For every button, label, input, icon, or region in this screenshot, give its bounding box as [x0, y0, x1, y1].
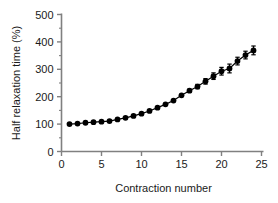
data-point-marker	[123, 115, 129, 121]
data-point-marker	[155, 105, 161, 111]
x-axis-title: Contraction number	[115, 182, 212, 194]
data-point-marker	[107, 118, 113, 124]
half-relaxation-time-scatter-chart: 01002003004005000510152025Contraction nu…	[0, 0, 278, 203]
data-point-marker	[195, 84, 201, 90]
y-axis-tick-label: 200	[35, 91, 53, 103]
y-axis-tick-label: 100	[35, 118, 53, 130]
data-point-marker	[91, 119, 97, 125]
y-axis-tick-label: 0	[47, 146, 53, 158]
x-axis-tick-label: 25	[255, 158, 267, 170]
data-point-marker	[171, 98, 177, 104]
data-point-marker	[83, 120, 89, 126]
x-axis-tick-label: 15	[175, 158, 187, 170]
data-point-marker	[211, 73, 217, 79]
y-axis-title: Half relaxation time (%)	[10, 26, 22, 140]
data-point-marker	[131, 113, 137, 119]
data-point-marker	[227, 66, 233, 72]
data-point-marker	[147, 108, 153, 114]
data-point-marker	[251, 47, 257, 53]
x-axis-tick-label: 20	[215, 158, 227, 170]
x-axis-tick-label: 10	[135, 158, 147, 170]
y-axis-tick-label: 500	[35, 9, 53, 21]
x-axis-tick-label: 0	[58, 158, 64, 170]
chart-figure: 01002003004005000510152025Contraction nu…	[0, 0, 278, 203]
data-point-marker	[99, 119, 105, 125]
data-point-marker	[67, 121, 73, 127]
data-point-marker	[115, 117, 121, 123]
data-point-marker	[179, 92, 185, 98]
data-point-marker	[163, 101, 169, 107]
data-point-marker	[203, 78, 209, 84]
data-point-marker	[187, 88, 193, 94]
data-point-marker	[75, 121, 81, 127]
data-point-marker	[235, 58, 241, 64]
data-point-marker	[139, 111, 145, 117]
data-line	[70, 50, 254, 124]
x-axis-tick-label: 5	[98, 158, 104, 170]
data-point-marker	[219, 68, 225, 74]
y-axis-tick-label: 300	[35, 63, 53, 75]
y-axis-tick-label: 400	[35, 36, 53, 48]
data-point-marker	[243, 52, 249, 58]
